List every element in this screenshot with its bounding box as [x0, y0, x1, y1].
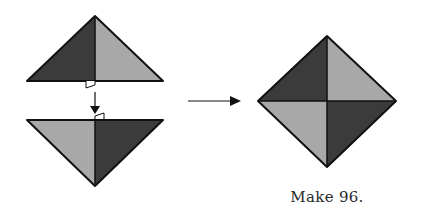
seam-tab-icon: [86, 81, 95, 88]
result-right-arrow-icon: [188, 96, 241, 106]
assembly-diagram: [0, 0, 426, 214]
bottom-triangle-unit: [27, 113, 163, 186]
join-down-arrow-icon: [90, 92, 100, 114]
result-quarter-square-block: [258, 36, 396, 167]
top-triangle-unit: [27, 16, 163, 88]
make-count-caption: Make 96.: [270, 188, 384, 206]
seam-tab-icon: [95, 113, 104, 120]
